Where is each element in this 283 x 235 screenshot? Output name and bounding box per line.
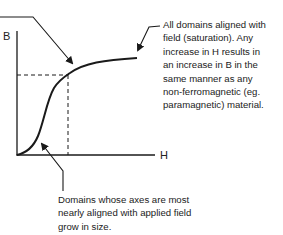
knee-leader-line: [0, 17, 72, 63]
x-axis-label: H: [160, 150, 168, 161]
magnetization-curve: [17, 58, 137, 155]
saturation-leader-line: [138, 26, 160, 50]
saturation-annotation: All domains aligned with field (saturati…: [163, 18, 266, 112]
y-axis-label: B: [3, 31, 10, 42]
growth-leader-line: [42, 144, 63, 191]
domain-growth-annotation: Domains whose axes are most nearly align…: [58, 193, 191, 233]
